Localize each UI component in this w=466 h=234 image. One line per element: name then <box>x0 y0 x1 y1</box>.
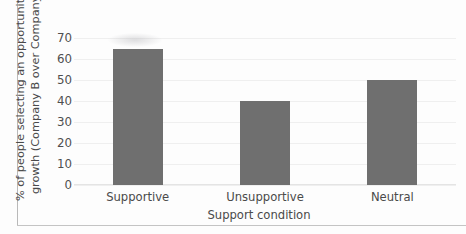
y-axis-tick-label: 0 <box>32 178 72 192</box>
x-axis-category-label: Unsupportive <box>226 190 304 204</box>
y-axis-title-line-1: % of people selecting an opportunity for <box>13 0 28 201</box>
bar-chart-figure: % of people selecting an opportunity for… <box>0 0 466 234</box>
plot-area <box>74 38 456 185</box>
bar[interactable] <box>367 80 417 185</box>
page-border-bottom <box>17 225 466 226</box>
y-axis-tick-label: 20 <box>32 136 72 150</box>
x-axis-category-label: Supportive <box>106 190 169 204</box>
y-axis-tick-labels: 706050403020100 <box>28 38 72 185</box>
x-axis-title-text: Support condition <box>155 208 310 222</box>
y-axis-tick-label: 30 <box>32 115 72 129</box>
x-axis-title: Support condition <box>0 208 466 222</box>
y-axis-tick-label: 50 <box>32 73 72 87</box>
gridline <box>74 38 456 39</box>
bar[interactable] <box>113 49 163 186</box>
y-axis-tick-label: 40 <box>32 94 72 108</box>
y-axis-tick-label: 70 <box>32 31 72 45</box>
x-axis-category-label: Neutral <box>371 190 414 204</box>
y-axis-tick-label: 60 <box>32 52 72 66</box>
y-axis-tick-label: 10 <box>32 157 72 171</box>
bar[interactable] <box>240 101 290 185</box>
gridline <box>74 185 456 186</box>
